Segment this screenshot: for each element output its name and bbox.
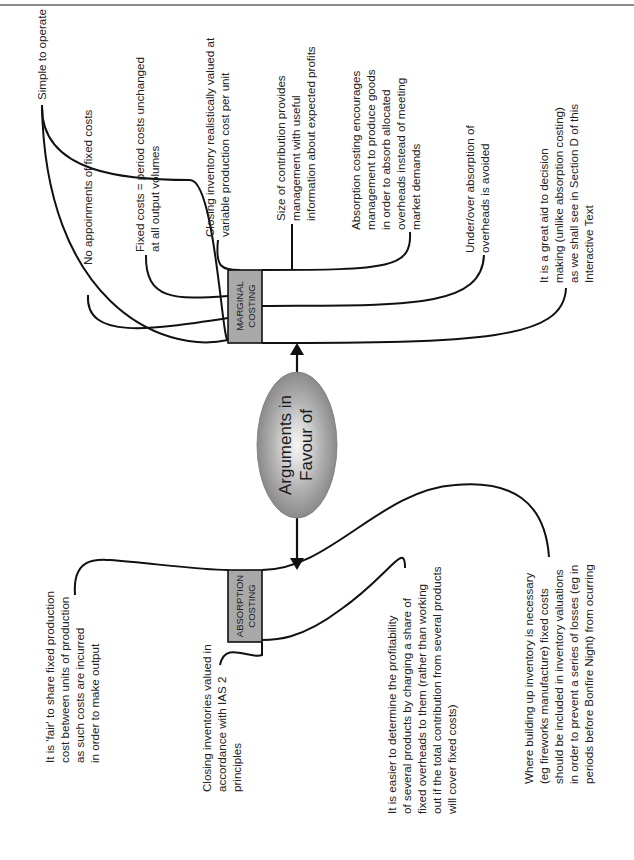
connector-fair-to-share	[75, 560, 228, 595]
argument-text-line: overheads is avoided	[478, 143, 491, 253]
center-label-line-1: Arguments in	[276, 395, 295, 495]
argument-text-line: in order to prevent a series of losses (…	[567, 565, 580, 784]
marginal-argument-3: Fixed costs = period costs unchanged at …	[133, 57, 161, 252]
connector-easier-to-determine	[262, 558, 405, 640]
argument-text-line: It is 'fair' to share fixed production	[43, 591, 56, 763]
argument-text-line: Fixed costs = period costs unchanged	[133, 57, 146, 252]
argument-text-line: should be included in inventory valuatio…	[552, 569, 565, 784]
marginal-argument-4: Closing inventory realistically valued a…	[203, 37, 231, 237]
argument-text-line: Simple to operate	[35, 9, 48, 100]
connector-under-over	[262, 255, 484, 306]
connector-great-aid	[262, 288, 566, 343]
connector-closing-inventory	[217, 240, 240, 270]
argument-text-line: of several products by charging a share …	[400, 597, 413, 814]
argument-text-line: in order to make output	[88, 643, 101, 763]
argument-text-line: at all output volumes	[148, 145, 161, 252]
argument-text-line: making (unlike absorption costing)	[552, 107, 565, 283]
argument-text-line: out if the total contribution from sever…	[430, 566, 443, 814]
center-label-line-2: Favour of	[297, 409, 316, 481]
argument-text-line: It is easier to determine the profitabil…	[385, 615, 398, 814]
marginal-argument-2: No appoinments of fixed costs	[81, 109, 94, 265]
argument-text-line: overheads instead of meeting	[394, 78, 407, 230]
argument-text-line: fixed overheads to them (rather than wor…	[415, 584, 428, 814]
marginal-costing-node: MARGINAL COSTING	[228, 270, 262, 343]
argument-text-line: cost between units of production	[58, 597, 71, 763]
argument-text-line: as we shall see in Section D of this	[567, 104, 580, 283]
argument-text-line: It is a great aid to decision	[537, 148, 550, 283]
absorption-argument-1: It is 'fair' to share fixed production c…	[43, 591, 101, 763]
argument-text-line: accordance with IAS 2	[215, 677, 228, 792]
marginal-argument-1: Simple to operate	[35, 9, 48, 100]
marginal-label-line-2: COSTING	[246, 284, 257, 327]
argument-text-line: principles	[230, 743, 243, 792]
argument-text-line: information about expected profits	[304, 46, 317, 221]
argument-text-line: Size of contribution provides	[274, 75, 287, 221]
marginal-label-line-1: MARGINAL	[234, 281, 245, 331]
absorption-argument-3: It is easier to determine the profitabil…	[385, 566, 458, 815]
argument-text-line: management to produce goods	[364, 69, 377, 230]
absorption-costing-node: ABSORPTION COSTING	[228, 570, 262, 642]
marginal-argument-8: It is a great aid to decision making (un…	[537, 104, 595, 283]
absorption-label-line-1: ABSORPTION	[234, 575, 245, 637]
connector-closing-inventories-valued	[220, 642, 262, 665]
argument-text-line: management with useful	[289, 95, 302, 221]
argument-text-line: Closing inventories valued in	[200, 644, 213, 792]
arrow-up-icon	[290, 343, 304, 355]
absorption-label-line-2: COSTING	[246, 584, 257, 627]
argument-text-line: Closing inventory realistically valued a…	[203, 37, 216, 237]
marginal-argument-7: Under/over absorption of overheads is av…	[463, 125, 491, 253]
argument-text-line: No appoinments of fixed costs	[81, 109, 94, 265]
argument-text-line: Where building up inventory is necessary	[522, 572, 535, 784]
argument-text-line: will cover fixed costs)	[445, 704, 458, 815]
argument-text-line: market demands	[409, 143, 422, 230]
argument-text-line: as such costs are incurred	[73, 628, 86, 763]
marginal-argument-5: Size of contribution provides management…	[274, 46, 317, 221]
argument-text-line: (eg fireworks manufacture) fixed costs	[537, 588, 550, 784]
argument-text-line: periods before Bonfire Night) from ocurr…	[582, 564, 595, 784]
argument-text-line: Under/over absorption of	[463, 125, 476, 253]
center-node: Arguments in Favour of	[257, 372, 337, 518]
argument-text-line: in order to absorb allocated	[379, 89, 392, 230]
connector-absorption-encourages	[262, 232, 410, 270]
absorption-argument-2: Closing inventories valued in accordance…	[200, 644, 243, 792]
mind-map-diagram: Arguments in Favour of MARGINAL COSTING …	[0, 0, 634, 860]
absorption-argument-4: Where building up inventory is necessary…	[522, 564, 595, 784]
argument-text-line: variable production cost per unit	[218, 72, 231, 237]
argument-text-line: Interactive Text	[582, 204, 595, 283]
marginal-argument-6: Absorption costing encourages management…	[349, 69, 422, 230]
argument-text-line: Absorption costing encourages	[349, 71, 362, 230]
